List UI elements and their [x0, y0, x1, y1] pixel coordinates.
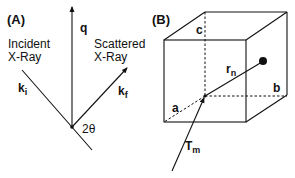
- q-label: q: [80, 21, 87, 35]
- atom-position: [259, 57, 267, 65]
- a-axis-label: a: [172, 101, 179, 115]
- two-theta-label: 2θ: [82, 122, 96, 136]
- ki-label: ki: [18, 81, 27, 97]
- scattering-diagram: (A) q Incident X-Ray Scattered X-Ray ki …: [0, 0, 295, 178]
- panel-b: (B) c b a rn: [152, 12, 287, 171]
- panel-a: (A) q Incident X-Ray Scattered X-Ray ki …: [7, 7, 145, 150]
- rn-label: rn: [226, 62, 236, 78]
- panel-b-label: (B): [152, 12, 170, 27]
- scattered-line2: X-Ray: [94, 50, 127, 64]
- scattered-line1: Scattered: [94, 37, 145, 51]
- c-axis-label: c: [196, 23, 203, 37]
- tm-label: Tm: [185, 139, 200, 155]
- kf-label: kf: [118, 84, 129, 100]
- panel-a-label: (A): [7, 12, 25, 27]
- incident-line1: Incident: [8, 37, 51, 51]
- incident-line2: X-Ray: [8, 50, 41, 64]
- scattering-point: [70, 125, 74, 129]
- cell-origin-point: [203, 94, 206, 97]
- b-axis-label: b: [273, 81, 280, 95]
- incident-beam-line: [22, 70, 92, 150]
